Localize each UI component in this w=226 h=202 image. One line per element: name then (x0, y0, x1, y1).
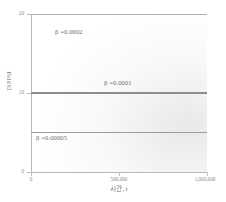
x-axis-title: 시간, t (31, 186, 207, 193)
series-line-beta-0.00005 (31, 132, 207, 133)
series-label-beta-0.0002: β =0.0002 (55, 29, 83, 36)
series-label-beta-0.0001: β =0.0001 (104, 80, 132, 87)
x-tick-label-1000000: 1,000,000 (183, 177, 226, 182)
y-tick-label-0: 0 (4, 169, 24, 174)
x-tick-label-0: 0 (21, 177, 41, 182)
y-axis-title: DiPPM (6, 59, 12, 103)
series-label-beta-0.00005: β =0.00005 (36, 135, 67, 142)
series-line-beta-0.0001 (31, 92, 207, 94)
x-tick-label-500000: 500,000 (99, 177, 139, 182)
y-tick-label-20: 20 (4, 11, 24, 16)
chart-figure: 20 10 0 0 500,000 1,000,000 β =0.0002 β … (0, 0, 226, 202)
series-line-beta-0.0002 (31, 14, 207, 15)
